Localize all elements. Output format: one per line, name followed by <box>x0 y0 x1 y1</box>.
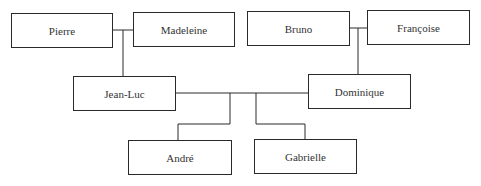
person-box-bruno: Bruno <box>247 11 350 46</box>
person-box-madeleine: Madeleine <box>133 12 235 47</box>
person-name: Madeleine <box>161 24 207 36</box>
person-box-gabrielle: Gabrielle <box>254 139 357 174</box>
person-name: Dominique <box>335 86 385 98</box>
person-box-francoise: Françoise <box>367 10 470 45</box>
person-name: Bruno <box>285 23 313 35</box>
descent-line-gabrielle <box>256 93 305 139</box>
person-name: Françoise <box>397 22 440 34</box>
person-name: Pierre <box>49 25 75 37</box>
person-box-pierre: Pierre <box>11 13 113 48</box>
person-box-dominique: Dominique <box>308 74 411 109</box>
person-name: Jean-Luc <box>104 88 144 100</box>
descent-line-andre <box>178 93 230 140</box>
person-box-andre: André <box>128 140 232 175</box>
person-box-jean-luc: Jean-Luc <box>73 76 176 111</box>
person-name: André <box>166 152 194 164</box>
person-name: Gabrielle <box>285 151 326 163</box>
